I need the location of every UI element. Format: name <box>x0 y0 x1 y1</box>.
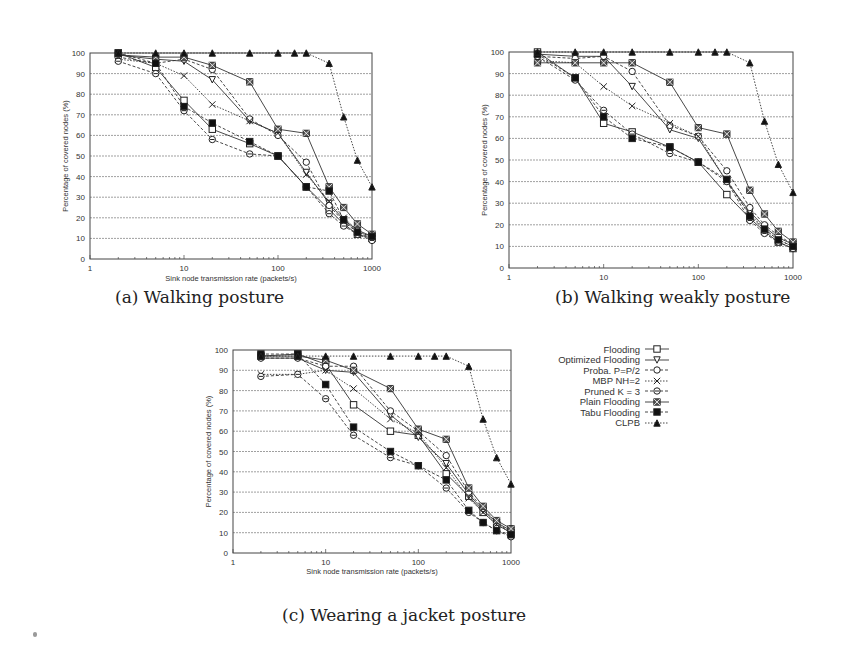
svg-text:100: 100 <box>215 346 229 355</box>
svg-text:Percentage of covered nodes (%: Percentage of covered nodes (%) <box>204 395 213 507</box>
svg-text:Sink node transmission rate (p: Sink node transmission rate (packets/s) <box>306 567 438 576</box>
svg-text:90: 90 <box>219 366 228 375</box>
scan-speck <box>33 632 37 637</box>
svg-text:100: 100 <box>271 264 285 273</box>
svg-text:50: 50 <box>219 448 228 457</box>
x-marker-icon <box>644 376 670 386</box>
star-box-marker-icon <box>644 397 670 407</box>
svg-text:1: 1 <box>507 273 512 282</box>
caption-a: (a) Walking posture <box>115 287 284 307</box>
figure: 01020304050607080901001101001000Percenta… <box>0 0 841 658</box>
svg-text:Percentage of covered nodes (%: Percentage of covered nodes (%) <box>61 100 70 212</box>
svg-text:10: 10 <box>495 242 504 251</box>
svg-text:30: 30 <box>76 193 85 202</box>
triangle-down-marker-icon <box>644 355 670 365</box>
legend-item-clpb: CLPB <box>530 418 670 429</box>
caption-c: (c) Wearing a jacket posture <box>282 605 526 625</box>
legend-item-pruned: Pruned K = 3 <box>530 386 670 397</box>
svg-text:1000: 1000 <box>784 273 802 282</box>
svg-text:0: 0 <box>500 264 505 273</box>
svg-text:80: 80 <box>76 90 85 99</box>
legend-item-optimized-flooding: Optimized Flooding <box>530 355 670 366</box>
circle-dot-marker-icon <box>644 386 670 396</box>
svg-text:1: 1 <box>231 558 236 567</box>
legend: Flooding Optimized Flooding Proba. P=P/2… <box>530 344 670 428</box>
svg-text:10: 10 <box>321 558 330 567</box>
legend-item-mbp: MBP NH=2 <box>530 376 670 387</box>
svg-text:10: 10 <box>219 529 228 538</box>
svg-text:0: 0 <box>81 255 86 264</box>
square-filled-marker-icon <box>644 407 670 417</box>
circle-open-marker-icon <box>644 365 670 375</box>
svg-text:100: 100 <box>491 48 505 57</box>
svg-text:40: 40 <box>495 178 504 187</box>
svg-text:60: 60 <box>495 134 504 143</box>
svg-text:80: 80 <box>219 387 228 396</box>
svg-text:40: 40 <box>76 173 85 182</box>
legend-item-proba: Proba. P=P/2 <box>530 365 670 376</box>
svg-text:1000: 1000 <box>363 264 381 273</box>
plot-a: 01020304050607080901001101001000Percenta… <box>61 49 381 283</box>
svg-text:10: 10 <box>180 264 189 273</box>
svg-text:70: 70 <box>219 407 228 416</box>
plot-b: 01020304050607080901001101001000Percenta… <box>480 48 802 282</box>
svg-text:90: 90 <box>76 70 85 79</box>
svg-text:20: 20 <box>76 214 85 223</box>
plot-c: 01020304050607080901001101001000Percenta… <box>204 346 520 576</box>
chart-walking-posture: 01020304050607080901001101001000Percenta… <box>0 0 841 658</box>
svg-text:Percentage of covered nodes (%: Percentage of covered nodes (%) <box>480 104 489 216</box>
svg-text:10: 10 <box>599 273 608 282</box>
svg-text:1: 1 <box>88 264 93 273</box>
svg-text:100: 100 <box>692 273 706 282</box>
svg-text:70: 70 <box>495 113 504 122</box>
svg-text:100: 100 <box>72 49 86 58</box>
svg-text:40: 40 <box>219 468 228 477</box>
svg-text:90: 90 <box>495 70 504 79</box>
svg-text:20: 20 <box>219 508 228 517</box>
svg-text:20: 20 <box>495 221 504 230</box>
legend-item-plain-flooding: Plain Flooding <box>530 397 670 408</box>
legend-item-flooding: Flooding <box>530 344 670 355</box>
svg-text:70: 70 <box>76 111 85 120</box>
svg-text:30: 30 <box>495 199 504 208</box>
svg-text:Sink node transmission rate (p: Sink node transmission rate (packets/s) <box>165 274 297 283</box>
svg-text:60: 60 <box>76 131 85 140</box>
svg-text:30: 30 <box>219 488 228 497</box>
svg-text:100: 100 <box>412 558 426 567</box>
caption-b: (b) Walking weakly posture <box>555 287 790 307</box>
square-open-marker-icon <box>644 344 670 354</box>
legend-item-tabu-flooding: Tabu Flooding <box>530 407 670 418</box>
triangle-filled-marker-icon <box>644 418 670 428</box>
svg-text:10: 10 <box>76 234 85 243</box>
svg-text:50: 50 <box>495 156 504 165</box>
svg-text:80: 80 <box>495 91 504 100</box>
svg-text:0: 0 <box>224 549 229 558</box>
svg-text:60: 60 <box>219 427 228 436</box>
svg-text:50: 50 <box>76 152 85 161</box>
svg-text:1000: 1000 <box>502 558 520 567</box>
